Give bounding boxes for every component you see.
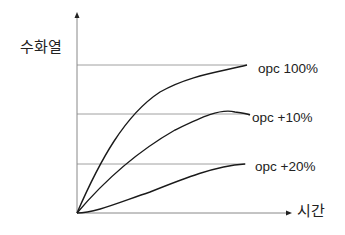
series-label-opc-10: opc +10% (252, 111, 312, 125)
y-axis-arrow-icon (75, 12, 80, 18)
series-label-opc-100: opc 100% (258, 62, 318, 76)
curve-opc-10 (77, 111, 250, 213)
x-axis-label: 시간 (297, 204, 325, 219)
curve-opc-100 (77, 65, 247, 213)
curve-opc-20 (77, 164, 245, 213)
y-axis-label: 수화열 (20, 40, 62, 55)
x-axis-arrow-icon (286, 211, 292, 216)
series-label-opc-20: opc +20% (255, 160, 315, 174)
